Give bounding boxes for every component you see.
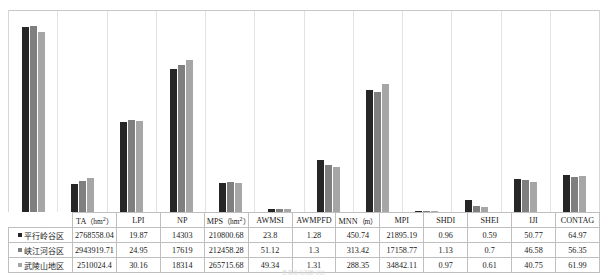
bar [514,179,521,212]
table-cell: 50.77 [512,228,556,243]
column-header: IJI [512,213,556,228]
table-cell: 64.97 [555,228,599,243]
bar [178,65,185,212]
table-cell: 17158.77 [380,243,424,258]
bar-group-np [107,11,156,212]
bar [170,69,177,212]
table-cell: 210800.68 [204,228,248,243]
bar [522,180,529,212]
table-cell: 17619 [160,243,204,258]
bar-group-mpshm [157,11,206,212]
column-header: TA（hm2） [73,213,117,228]
bar [120,122,127,212]
legend-swatch-icon [18,248,22,252]
column-header: SHDI [424,213,468,228]
data-table: TA（hm2）LPINPMPS（hm2）AWMSIAWMPFDMNN（m）MPI… [8,212,600,273]
table-cell: 313.42 [336,243,380,258]
bar [30,26,37,212]
table-cell: 51.12 [248,243,292,258]
table-row: 平行岭谷区2768558.0419.8714303210800.6823.81.… [9,228,600,243]
legend-swatch-icon [18,263,22,267]
bar-group-mnnm [304,11,353,212]
bar [366,90,373,212]
bar [227,182,234,212]
bar-group-contag [550,11,599,212]
table-cell: 56.35 [555,243,599,258]
column-header: AWMPFD [292,213,336,228]
bar [317,160,324,212]
bar-group-lpi [58,11,107,212]
column-header: SHEI [468,213,512,228]
table-cell: 1.3 [292,243,336,258]
bar-group-tahm [9,11,58,212]
bar-group-awmsi [206,11,255,212]
table-cell: 0.96 [424,228,468,243]
column-header: CONTAG [555,213,599,228]
legend-label-text: 峡江河谷区 [24,247,64,256]
table-body: 平行岭谷区2768558.0419.8714303210800.6823.81.… [9,228,600,273]
bar [128,120,135,212]
bar-group-shei [452,11,501,212]
legend-swatch-icon [18,233,22,237]
bar [87,178,94,212]
table-cell: 450.74 [336,228,380,243]
table-cell: 46.58 [512,243,556,258]
legend-row-label: 峡江河谷区 [9,243,73,258]
bar [186,60,193,212]
figure-caption: 景观格局指数对比 [0,268,608,275]
bar [38,32,45,212]
bar [333,167,340,212]
bar [22,27,29,212]
bar-group-mpi [353,11,402,212]
bar-group-iji [501,11,550,212]
bar [71,184,78,212]
table-header-row: TA（hm2）LPINPMPS（hm2）AWMSIAWMPFDMNN（m）MPI… [9,213,600,228]
column-header: AWMSI [248,213,292,228]
bar [382,84,389,212]
table-cell: 0.7 [468,243,512,258]
table-cell: 1.13 [424,243,468,258]
table-cell: 24.95 [116,243,160,258]
bar [374,92,381,212]
bar [563,175,570,212]
bar [136,121,143,212]
chart-bar-groups [9,11,599,212]
column-header: NP [160,213,204,228]
table-header: TA（hm2）LPINPMPS（hm2）AWMSIAWMPFDMNN（m）MPI… [9,213,600,228]
table-row: 峡江河谷区2943919.7124.9517619212458.2851.121… [9,243,600,258]
table-corner-cell [9,213,73,228]
table-cell: 2768558.04 [73,228,117,243]
bar [219,183,226,212]
bar [579,176,586,212]
column-header: MPS（hm2） [204,213,248,228]
bar [465,200,472,212]
bar [325,165,332,212]
table-cell: 2943919.71 [73,243,117,258]
bar [79,181,86,212]
bar-group-awmpfd [255,11,304,212]
table-cell: 19.87 [116,228,160,243]
column-header: MPI [380,213,424,228]
table-cell: 0.59 [468,228,512,243]
table-cell: 14303 [160,228,204,243]
bar [235,183,242,212]
bar-group-shdi [402,11,451,212]
table-cell: 212458.28 [204,243,248,258]
table-cell: 1.28 [292,228,336,243]
bar [530,182,537,212]
legend-row-label: 平行岭谷区 [9,228,73,243]
bar [571,177,578,212]
column-header: MNN（m） [336,213,380,228]
chart-plot-area [8,10,600,212]
table-cell: 23.8 [248,228,292,243]
chart-with-data-table: TA（hm2）LPINPMPS（hm2）AWMSIAWMPFDMNN（m）MPI… [0,0,608,279]
table-cell: 21895.19 [380,228,424,243]
column-header: LPI [116,213,160,228]
legend-label-text: 平行岭谷区 [24,232,64,241]
